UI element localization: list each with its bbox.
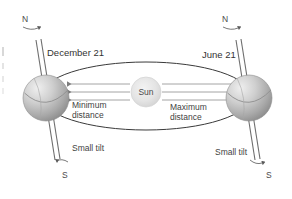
minimum-distance-line2: distance: [72, 110, 104, 120]
south-arrow-june-icon: [250, 160, 262, 164]
minimum-distance-line1: Minimum: [72, 100, 106, 110]
south-pole-december-group: S: [56, 160, 68, 180]
rotation-arrow-december-icon: [23, 27, 38, 29]
north-pole-december-label: N: [22, 14, 28, 24]
small-tilt-label-december: Small tilt: [72, 143, 105, 153]
minimum-distance-label: Minimum distance: [72, 100, 106, 120]
south-arrow-december-icon: [56, 160, 68, 162]
north-pole-june-group: N: [222, 14, 238, 29]
small-tilt-label-june: Small tilt: [215, 147, 248, 157]
south-pole-december-label: S: [62, 170, 68, 180]
left-edge-clipped-marks: [2, 47, 4, 94]
date-label-june: June 21: [202, 49, 236, 60]
south-pole-june-group: S: [250, 160, 272, 180]
date-label-december: December 21: [47, 47, 104, 58]
north-pole-june-label: N: [222, 14, 228, 24]
sun-label: Sun: [138, 87, 153, 97]
rays-to-left-earth: [67, 84, 130, 100]
sun-group: Sun: [131, 77, 161, 107]
maximum-distance-label: Maximum distance: [170, 102, 207, 122]
south-pole-june-label: S: [266, 170, 272, 180]
rotation-arrow-june-icon: [223, 27, 238, 29]
orbit-diagram-svg: Sun: [0, 0, 292, 199]
north-pole-december-group: N: [22, 14, 38, 29]
diagram-canvas: Sun: [0, 0, 292, 199]
maximum-distance-line1: Maximum: [170, 102, 207, 112]
earth-june-body: [226, 75, 272, 121]
earth-december-body: [23, 75, 69, 121]
maximum-distance-line2: distance: [170, 112, 202, 122]
